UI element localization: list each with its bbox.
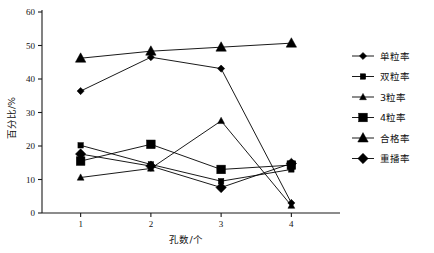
x-tick-label: 3 xyxy=(219,219,224,229)
x-axis-title: 孔数/个 xyxy=(169,234,202,245)
legend-label: 4粒率 xyxy=(380,112,406,123)
y-tick-label: 0 xyxy=(31,208,36,218)
series-line xyxy=(81,43,292,58)
x-tick-label: 1 xyxy=(78,219,83,229)
legend-item-5[interactable]: 合格率 xyxy=(352,133,410,144)
data-point xyxy=(146,161,156,171)
series-5 xyxy=(75,38,296,62)
legend-marker xyxy=(360,74,365,79)
chart-series-group xyxy=(75,38,296,209)
legend-item-6[interactable]: 重播率 xyxy=(352,153,410,164)
series-6 xyxy=(75,149,296,193)
y-tick-label: 50 xyxy=(26,41,36,51)
legend-label: 单粒率 xyxy=(380,51,410,62)
y-axis-title: 百分比/% xyxy=(6,97,17,139)
data-point xyxy=(218,117,225,123)
y-axis-ticks: 0102030405060 xyxy=(26,7,42,218)
series-1 xyxy=(77,54,295,207)
series-line xyxy=(81,144,292,169)
chart-canvas: 0102030405060 1234 百分比/% 孔数/个 单粒率双粒率3粒率4… xyxy=(0,0,434,253)
data-point xyxy=(78,143,83,148)
data-point xyxy=(216,182,226,192)
x-tick-label: 2 xyxy=(149,219,154,229)
legend-label: 合格率 xyxy=(380,133,410,144)
data-point xyxy=(218,65,225,72)
legend-item-1[interactable]: 单粒率 xyxy=(352,51,410,62)
series-line xyxy=(81,121,292,206)
data-point xyxy=(77,87,84,94)
series-line xyxy=(81,145,292,181)
x-tick-label: 4 xyxy=(289,219,294,229)
legend-marker xyxy=(359,113,368,122)
line-chart: 0102030405060 1234 百分比/% 孔数/个 单粒率双粒率3粒率4… xyxy=(0,0,434,253)
legend-label: 3粒率 xyxy=(380,92,406,103)
y-tick-label: 30 xyxy=(26,108,36,118)
series-line xyxy=(81,57,292,203)
legend-marker xyxy=(358,153,368,163)
legend-item-4[interactable]: 4粒率 xyxy=(352,112,406,123)
x-axis-ticks: 1234 xyxy=(78,213,294,229)
data-point xyxy=(286,38,296,47)
series-3 xyxy=(77,117,295,208)
series-2 xyxy=(78,143,294,184)
data-point xyxy=(216,42,226,51)
y-tick-label: 60 xyxy=(26,7,36,17)
series-line xyxy=(81,154,292,188)
y-tick-label: 40 xyxy=(26,74,36,84)
y-tick-label: 10 xyxy=(26,175,36,185)
data-point xyxy=(217,165,226,174)
legend-label: 双粒率 xyxy=(380,71,410,82)
chart-axes xyxy=(42,10,340,213)
chart-legend: 单粒率双粒率3粒率4粒率合格率重播率 xyxy=(352,51,410,165)
data-point xyxy=(146,46,156,55)
legend-marker xyxy=(358,133,368,142)
legend-marker xyxy=(359,52,366,59)
data-point xyxy=(147,140,156,149)
legend-item-3[interactable]: 3粒率 xyxy=(352,92,406,103)
legend-label: 重播率 xyxy=(380,153,410,164)
y-tick-label: 20 xyxy=(26,141,36,151)
legend-item-2[interactable]: 双粒率 xyxy=(352,71,410,82)
